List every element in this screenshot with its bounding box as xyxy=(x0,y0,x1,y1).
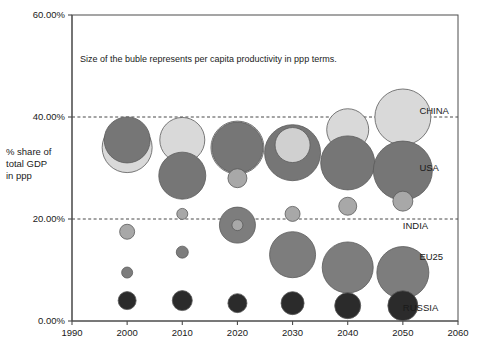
bubble-usa-2020[interactable] xyxy=(212,122,263,173)
bubble-usa-2040[interactable] xyxy=(321,136,375,190)
series-label-usa: USA xyxy=(419,162,439,173)
x-tick-label-2040: 2040 xyxy=(337,327,358,338)
bubble-chart: 0.00%20.00%40.00%60.00% 1990200020102020… xyxy=(0,0,483,350)
chart-annotation: Size of the buble represents per capita … xyxy=(80,54,337,64)
bubble-eu25-2030[interactable] xyxy=(270,232,316,278)
series-label-eu25: EU25 xyxy=(419,251,443,262)
series-label-china: CHINA xyxy=(419,105,449,116)
bubble-russia-2000[interactable] xyxy=(118,292,136,310)
y-axis-title-line-0: % share of xyxy=(6,146,52,157)
bubble-inner-china-2030[interactable] xyxy=(275,128,310,163)
y-tick-label-20: 20.00% xyxy=(33,213,66,224)
y-tick-label-40: 40.00% xyxy=(33,111,66,122)
x-tick-label-2010: 2010 xyxy=(172,327,193,338)
chart-canvas: 0.00%20.00%40.00%60.00% 1990200020102020… xyxy=(0,0,483,350)
bubble-eu25-2010[interactable] xyxy=(176,246,188,258)
bubble-eu25-2040[interactable] xyxy=(322,242,373,293)
bubble-usa-2010[interactable] xyxy=(159,152,206,199)
x-tick-label-2020: 2020 xyxy=(227,327,248,338)
bubble-china-2050[interactable] xyxy=(375,89,431,145)
bubble-india-2040[interactable] xyxy=(339,197,357,215)
bubble-russia-2040[interactable] xyxy=(335,293,361,319)
series-label-russia: RUSSIA xyxy=(403,302,439,313)
x-tick-label-2060: 2060 xyxy=(447,327,468,338)
bubble-india-2010[interactable] xyxy=(177,208,188,219)
bubble-india-2000[interactable] xyxy=(120,224,135,239)
y-tick-label-60: 60.00% xyxy=(33,9,66,20)
bubble-russia-2010[interactable] xyxy=(172,291,192,311)
x-tick-label-2050: 2050 xyxy=(392,327,413,338)
bubble-india-2020[interactable] xyxy=(228,169,247,188)
bubble-inner-india-2020[interactable] xyxy=(232,220,243,231)
y-axis-title-line-2: in ppp xyxy=(6,170,32,181)
x-tick-label-2030: 2030 xyxy=(282,327,303,338)
bubble-russia-2020[interactable] xyxy=(228,294,247,313)
x-tick-label-2000: 2000 xyxy=(117,327,138,338)
bubble-india-2050[interactable] xyxy=(393,191,413,211)
bubble-eu25-2000[interactable] xyxy=(122,267,133,278)
bubble-india-2030[interactable] xyxy=(285,206,300,221)
series-label-india: INDIA xyxy=(403,220,429,231)
y-axis-title-line-1: total GDP xyxy=(6,158,47,169)
bubble-russia-2030[interactable] xyxy=(281,292,304,315)
annotation-label: Size of the buble represents per capita … xyxy=(80,54,337,64)
y-tick-label-0: 0.00% xyxy=(38,315,65,326)
bubble-usa-2000[interactable] xyxy=(104,117,150,163)
x-tick-label-1990: 1990 xyxy=(61,327,82,338)
